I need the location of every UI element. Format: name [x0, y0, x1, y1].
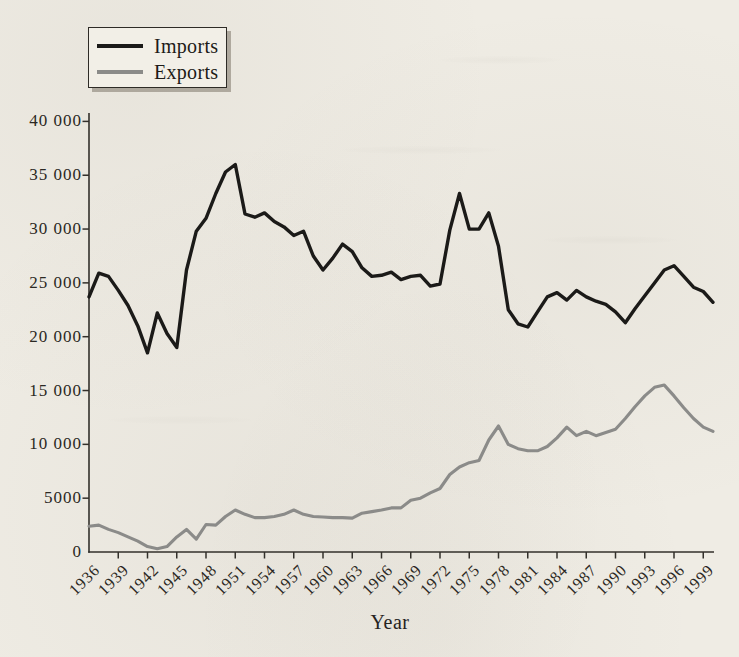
- imports-line-sample: [97, 44, 143, 48]
- x-axis-ticks: [118, 552, 703, 559]
- legend-label-imports: Imports: [154, 35, 218, 58]
- x-axis-title: Year: [320, 611, 460, 634]
- legend-item-exports: Exports: [97, 59, 226, 85]
- y-tick-label: 20 000: [6, 327, 82, 347]
- legend-item-imports: Imports: [97, 33, 226, 59]
- legend-label-exports: Exports: [154, 61, 218, 84]
- imports-line: [89, 165, 713, 353]
- legend-box: Imports Exports: [88, 27, 227, 88]
- y-tick-label: 15 000: [6, 381, 82, 401]
- y-tick-label: 25 000: [6, 273, 82, 293]
- y-tick-label: 30 000: [6, 219, 82, 239]
- y-tick-label: 10 000: [6, 434, 82, 454]
- exports-line-sample: [97, 70, 143, 74]
- y-axis-ticks: [83, 121, 90, 498]
- y-tick-label: 0: [6, 542, 82, 562]
- exports-line: [89, 385, 713, 549]
- book-chart-figure: 40 00035 00030 00025 00020 00015 00010 0…: [0, 0, 739, 657]
- y-tick-label: 35 000: [6, 165, 82, 185]
- chart-canvas: [0, 0, 739, 657]
- y-tick-label: 5000: [6, 488, 82, 508]
- y-tick-label: 40 000: [6, 111, 82, 131]
